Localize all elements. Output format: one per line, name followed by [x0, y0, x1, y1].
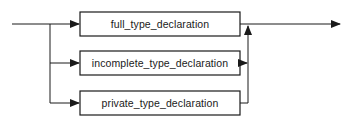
- box-label: full_type_declaration: [111, 18, 209, 30]
- private-to-merge: [240, 26, 248, 103]
- box-full-type-declaration: full_type_declaration: [80, 12, 240, 36]
- box-private-type-declaration: private_type_declaration: [80, 91, 240, 115]
- box-incomplete-type-declaration: incomplete_type_declaration: [80, 51, 240, 75]
- syntax-diagram: full_type_declaration incomplete_type_de…: [0, 0, 360, 127]
- box-label: incomplete_type_declaration: [92, 57, 228, 69]
- box-label: private_type_declaration: [102, 97, 219, 109]
